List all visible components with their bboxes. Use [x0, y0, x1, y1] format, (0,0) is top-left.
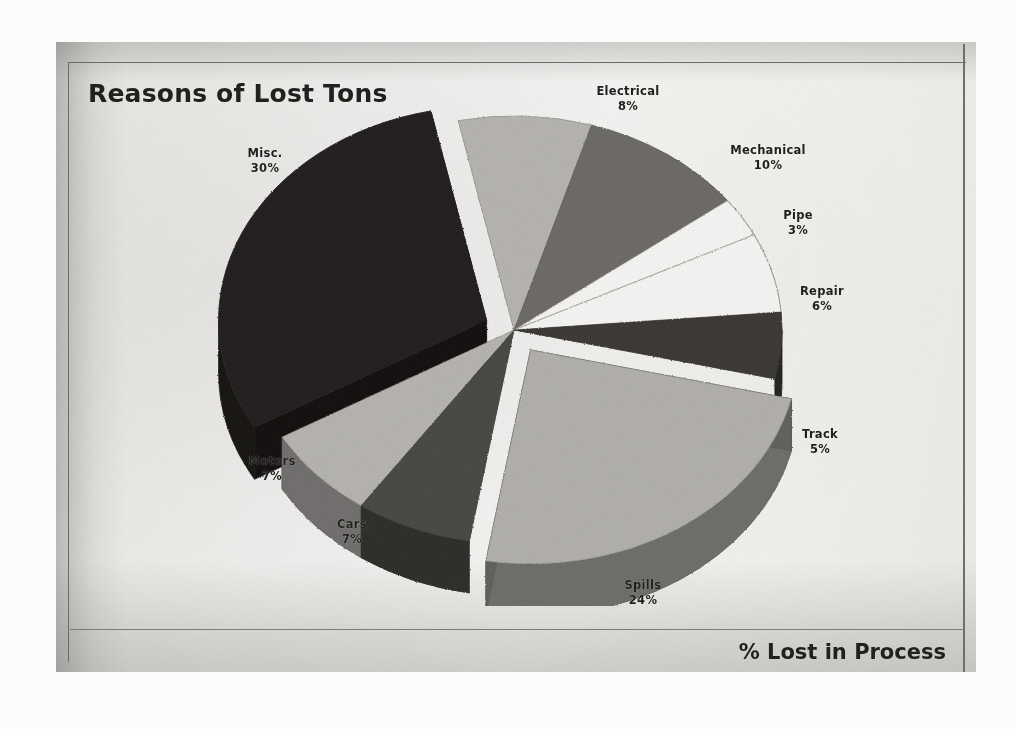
slice-label-cars-name: Cars — [292, 517, 412, 532]
slice-label-repair: Repair 6% — [762, 284, 882, 314]
slice-label-motors-name: Motors — [212, 454, 332, 469]
slice-label-mechanical-name: Mechanical — [703, 143, 833, 158]
slice-label-repair-name: Repair — [762, 284, 882, 299]
slice-label-mechanical: Mechanical 10% — [703, 143, 833, 173]
slice-label-electrical-pct: 8% — [563, 99, 693, 114]
slice-label-motors: Motors 7% — [212, 454, 332, 484]
scanned-page: Reasons of Lost Tons — [0, 0, 1016, 729]
slice-label-pipe-pct: 3% — [738, 223, 858, 238]
slice-label-spills-pct: 24% — [583, 593, 703, 608]
chart-frame-right-rule — [963, 44, 965, 672]
slice-label-track: Track 5% — [760, 427, 880, 457]
slice-label-misc: Misc. 30% — [205, 146, 325, 176]
slice-label-motors-pct: 7% — [212, 469, 332, 484]
chart-axis-caption: % Lost in Process — [0, 640, 946, 664]
slice-label-pipe-name: Pipe — [738, 208, 858, 223]
slice-label-cars-pct: 7% — [292, 532, 412, 547]
slice-label-misc-name: Misc. — [205, 146, 325, 161]
chart-frame-bottom-rule — [70, 629, 965, 630]
slice-label-cars: Cars 7% — [292, 517, 412, 547]
slice-label-mechanical-pct: 10% — [703, 158, 833, 173]
slice-label-spills: Spills 24% — [583, 578, 703, 608]
slice-label-track-name: Track — [760, 427, 880, 442]
slice-label-electrical-name: Electrical — [563, 84, 693, 99]
slice-label-spills-name: Spills — [583, 578, 703, 593]
slice-label-pipe: Pipe 3% — [738, 208, 858, 238]
slice-label-track-pct: 5% — [760, 442, 880, 457]
slice-label-electrical: Electrical 8% — [563, 84, 693, 114]
slice-label-repair-pct: 6% — [762, 299, 882, 314]
slice-label-misc-pct: 30% — [205, 161, 325, 176]
